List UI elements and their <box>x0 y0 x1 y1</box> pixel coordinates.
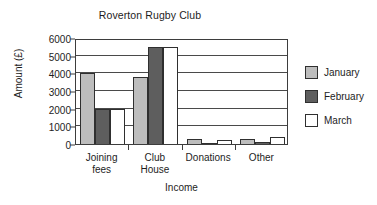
legend-swatch <box>305 90 318 103</box>
x-axis-label: Income <box>75 182 288 193</box>
legend-label: February <box>324 91 364 102</box>
bar <box>95 109 110 144</box>
x-tick-mark <box>182 145 183 150</box>
y-axis-label: Amount (£) <box>13 34 24 114</box>
y-tick-label: 6000 <box>27 34 71 45</box>
y-tick-label: 3000 <box>27 87 71 98</box>
legend-swatch <box>305 66 318 79</box>
x-tick-mark <box>128 145 129 150</box>
x-category-label: Donations <box>182 152 235 164</box>
bar-chart: Roverton Rugby Club Amount (£) 010002000… <box>0 0 377 205</box>
chart-title: Roverton Rugby Club <box>0 9 300 21</box>
y-tick-label: 5000 <box>27 51 71 62</box>
bar-group <box>183 40 236 144</box>
plot-area <box>75 39 288 145</box>
bar <box>202 143 217 145</box>
bar <box>240 139 255 144</box>
bar <box>163 47 178 144</box>
legend-swatch <box>305 114 318 127</box>
bar <box>80 73 95 144</box>
y-tick-label: 4000 <box>27 69 71 80</box>
y-tick-label: 0 <box>27 140 71 151</box>
x-tick-mark <box>235 145 236 150</box>
bar <box>133 77 148 144</box>
bar <box>270 137 285 144</box>
legend-item: January <box>305 60 377 84</box>
legend-label: January <box>324 67 360 78</box>
x-category-label: Club House <box>128 152 181 175</box>
legend-label: March <box>324 115 352 126</box>
y-tick-label: 1000 <box>27 122 71 133</box>
chart-legend: JanuaryFebruaryMarch <box>305 60 377 132</box>
legend-item: March <box>305 108 377 132</box>
y-tick-label: 2000 <box>27 104 71 115</box>
bar-group <box>76 40 129 144</box>
x-category-label: Other <box>235 152 288 164</box>
bar <box>110 109 125 144</box>
x-category-label: Joining fees <box>75 152 128 175</box>
legend-item: February <box>305 84 377 108</box>
bar-group <box>236 40 289 144</box>
bar-group <box>129 40 182 144</box>
bar <box>255 142 270 144</box>
bar <box>187 139 202 144</box>
bar <box>217 140 232 144</box>
bar <box>148 47 163 144</box>
